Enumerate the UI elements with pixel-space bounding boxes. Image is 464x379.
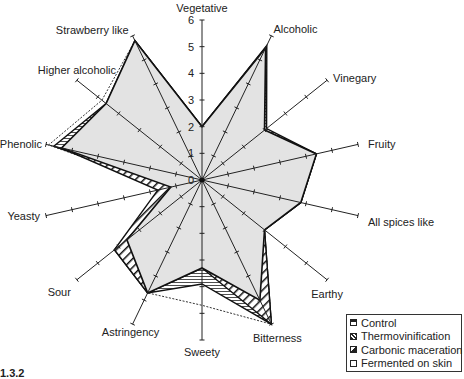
axis-label-sweety: Sweety <box>184 346 221 358</box>
axis-label-all-spices-like: All spices like <box>368 216 434 228</box>
axis-label-fruity: Fruity <box>368 138 396 150</box>
axis-label-earthy: Earthy <box>311 288 343 300</box>
carbonic-maceration-swatch-icon <box>350 346 357 353</box>
fermented-on-skin-swatch-icon <box>350 360 357 367</box>
legend-label: Carbonic maceration <box>361 344 463 356</box>
figure-caption: 1.3.2 <box>0 367 24 379</box>
legend-item-fermented-on-skin: Fermented on skin <box>350 357 458 371</box>
axis-label-vegetative: Vegetative <box>176 2 227 14</box>
control-swatch-icon <box>350 319 357 326</box>
radial-tick-label: 1 <box>188 147 194 159</box>
radial-tick-label: 0 <box>188 174 194 186</box>
series-layer <box>49 41 317 325</box>
radial-tick-label: 6 <box>188 14 194 26</box>
legend-label: Control <box>361 317 396 329</box>
legend-label: Thermovinification <box>361 330 450 342</box>
legend-item-control: Control <box>350 316 458 330</box>
radial-tick-label: 5 <box>188 41 194 53</box>
legend-item-carbonic-maceration: Carbonic maceration <box>350 343 458 357</box>
legend: Control Thermovinification Carbonic mace… <box>346 314 462 372</box>
thermovinification-swatch-icon <box>350 333 357 340</box>
axis-label-alcoholic: Alcoholic <box>273 23 318 35</box>
axis-label-phenolic: Phenolic <box>0 138 43 150</box>
legend-label: Fermented on skin <box>361 357 452 369</box>
axis-label-strawberry-like: Strawberry like <box>56 24 129 36</box>
axis-label-sour: Sour <box>48 286 72 298</box>
axis-label-yeasty: Yeasty <box>7 210 40 222</box>
axis-label-bitterness: Bitterness <box>253 332 302 344</box>
radial-tick-label: 4 <box>188 67 194 79</box>
axis-label-higher-alcoholic: Higher alcoholic <box>38 64 117 76</box>
axis-label-vinegary: Vinegary <box>333 72 377 84</box>
axis-label-astringency: Astringency <box>102 326 160 338</box>
radial-tick-label: 3 <box>188 94 194 106</box>
radial-tick-label: 2 <box>188 121 194 133</box>
legend-item-thermovinification: Thermovinification <box>350 330 458 344</box>
